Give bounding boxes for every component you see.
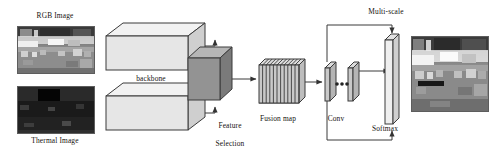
feature-selection-line-1: Feature xyxy=(218,121,241,130)
feature-selection-line-2: Selection xyxy=(216,139,245,148)
arrow-top-to-fs xyxy=(205,40,215,46)
multi-scale-column xyxy=(385,34,399,124)
multi-scale-label: Multi-scale xyxy=(349,7,423,16)
fusion-map-label: Fusion map xyxy=(247,114,309,123)
conv-slab-2 xyxy=(348,62,359,101)
figure-canvas: RGB Image Thermal Image xyxy=(0,0,504,160)
bracket-multi-scale xyxy=(327,25,392,62)
fusion-map-stack xyxy=(259,59,305,103)
output-segmentation-image xyxy=(411,36,489,112)
backbone-label: backbone xyxy=(116,74,186,83)
softmax-label: Softmax xyxy=(357,124,413,133)
conv-ellipsis-dots xyxy=(335,82,349,86)
conv-slab-1 xyxy=(325,62,336,101)
conv-label: Conv xyxy=(316,114,356,123)
feature-selection-cube xyxy=(188,47,232,100)
